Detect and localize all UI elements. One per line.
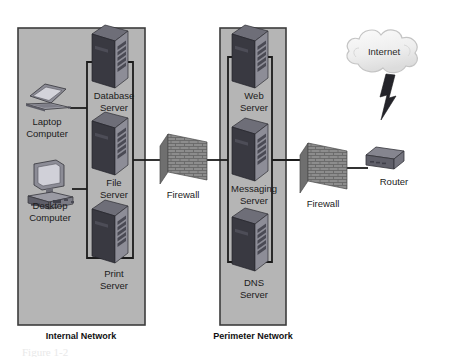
web-server-label-line2: Server [240,102,268,113]
network-diagram-canvas: Laptop Computer Desktop Computer Databas [0,0,449,357]
dns-server-icon [232,208,268,271]
firewall-inner-label: Firewall [167,189,200,200]
firewall-outer-icon [300,143,347,193]
database-server-label-line1: Database [94,90,135,101]
web-server-icon [232,25,268,88]
dns-server-label-line2: Server [240,289,268,300]
router-label: Router [380,176,409,187]
messaging-server-label-line2: Server [240,195,268,206]
network-topology-diagram: Laptop Computer Desktop Computer Databas [0,0,449,357]
messaging-server-icon [232,118,268,181]
laptop-label-line2: Computer [26,128,68,139]
figure-caption: Figure 1-2 [22,346,68,357]
desktop-label-line2: Computer [29,212,71,223]
firewall-inner-icon [160,134,207,184]
database-server-label-line2: Server [100,102,128,113]
router-icon [366,147,404,169]
file-server-icon [92,112,128,175]
firewall-outer-label: Firewall [307,198,340,209]
wireless-lightning-icon [380,74,396,120]
database-server-icon [92,25,128,88]
print-server-label-line1: Print [104,268,124,279]
internal-network-zone-label: Internal Network [46,331,118,341]
web-server-label-line1: Web [244,90,263,101]
print-server-icon [92,200,128,263]
messaging-server-label-line1: Messaging [231,183,277,194]
internet-label: Internet [368,46,401,57]
file-server-label-line1: File [106,177,121,188]
print-server-label-line2: Server [100,280,128,291]
file-server-label-line2: Server [100,189,128,200]
desktop-label-line1: Desktop [33,200,68,211]
laptop-label-line1: Laptop [32,116,61,127]
dns-server-label-line1: DNS [244,277,264,288]
perimeter-network-zone-label: Perimeter Network [213,331,294,341]
